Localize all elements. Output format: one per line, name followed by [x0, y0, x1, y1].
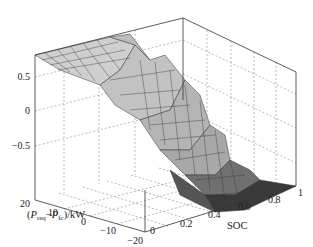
x-tick: 0.8: [268, 194, 281, 205]
z-tick: 0: [25, 105, 30, 116]
y-axis-label: (Preq−Pfc)/kW: [27, 209, 85, 222]
x-axis-label: SOC: [227, 220, 247, 231]
x-tick: 1: [298, 187, 303, 198]
y-tick: 20: [20, 198, 30, 209]
y-tick: −20: [127, 235, 143, 246]
x-tick: 0.4: [208, 209, 221, 220]
x-tick: 0: [150, 225, 155, 236]
y-tick: −10: [100, 225, 116, 236]
x-tick: 0.6: [238, 201, 251, 212]
z-tick: −0.5: [12, 140, 30, 151]
surface-plot: 0.5 0 −0.5 20 10 0 −10 −20 (Preq−Pfc)/kW…: [0, 0, 313, 247]
z-axis-ticks: 0.5 0 −0.5: [12, 71, 30, 151]
x-tick: 0.2: [180, 218, 193, 229]
y-axis-ticks: 20 10 0 −10 −20: [20, 198, 143, 246]
z-tick: 0.5: [18, 71, 31, 82]
